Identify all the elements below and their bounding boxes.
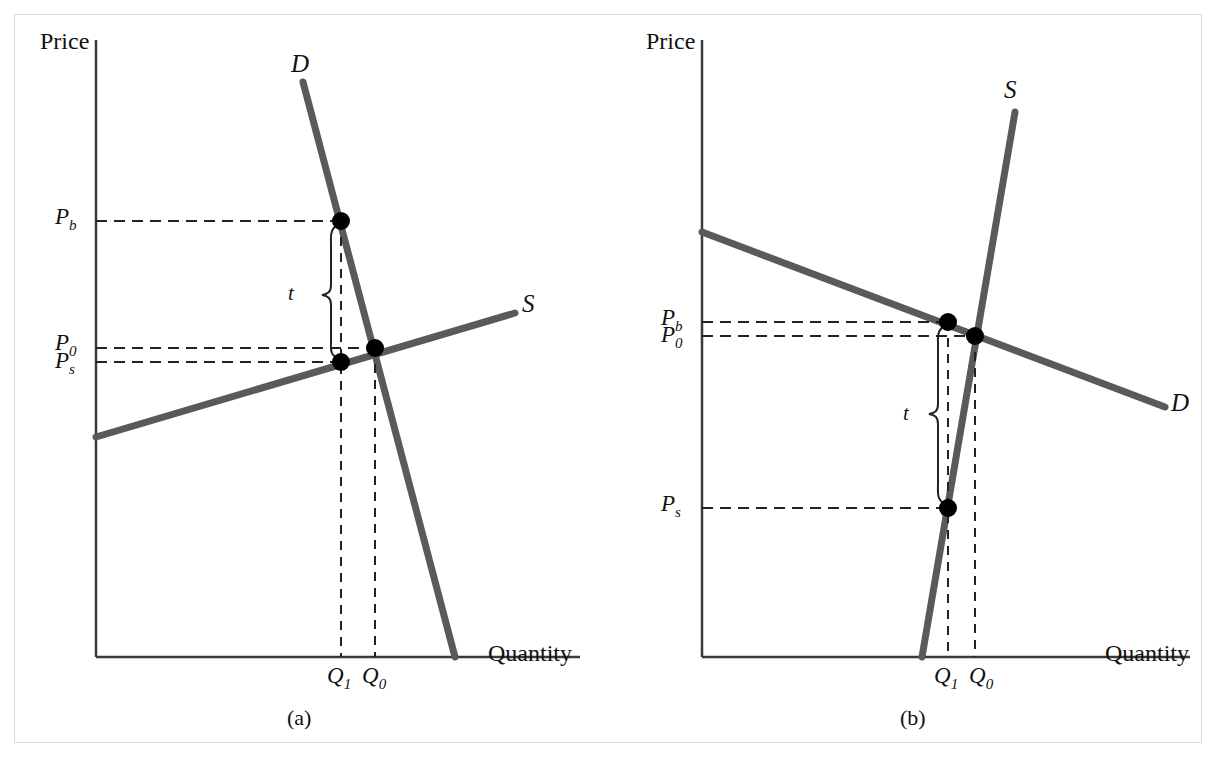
demand-curve [702,232,1165,407]
buyer-price-point [332,212,350,230]
seller-price-point [939,499,957,517]
quantity-label-q1: Q1 [934,663,958,693]
y-axis-title: Price [646,28,695,55]
price-label-pb: Pb [55,204,77,234]
y-axis-title: Price [40,28,89,55]
price-label-ps: Ps [661,491,681,521]
buyer-price-point [939,313,957,331]
tax-brace [322,223,341,360]
tax-brace [929,324,948,506]
x-axis-title: Quantity [1105,640,1189,667]
supply-curve [922,112,1015,657]
panel-a: Price Quantity D S Pb P0 Ps Q1 Q0 t (a) [0,0,608,757]
tax-incidence-figure: Price Quantity D S Pb P0 Ps Q1 Q0 t (a) [0,0,1216,757]
panel-caption-b: (b) [900,705,926,731]
supply-curve-label: S [522,290,535,318]
quantity-label-q1: Q1 [327,663,351,693]
demand-curve-label: D [291,50,309,78]
quantity-label-q0: Q0 [969,663,993,693]
price-label-p0: P0 [661,322,683,352]
x-axis-title: Quantity [488,640,572,667]
supply-curve-label: S [1004,76,1017,104]
panel-b: Price Quantity S D Pb P0 Ps Q1 Q0 t (b) [608,0,1216,757]
seller-price-point [332,353,350,371]
tax-label: t [288,281,294,306]
price-label-ps: Ps [55,348,75,378]
pretax-equilibrium-point [366,339,384,357]
demand-curve-label: D [1171,389,1189,417]
pretax-equilibrium-point [966,327,984,345]
panel-caption-a: (a) [287,705,311,731]
tax-label: t [903,401,909,426]
quantity-label-q0: Q0 [362,663,386,693]
supply-curve [96,313,515,437]
